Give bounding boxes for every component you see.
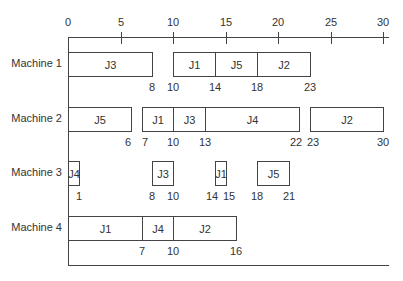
time-label: 18 <box>247 81 267 93</box>
time-label: 8 <box>142 190 162 202</box>
tick-label: 25 <box>319 16 343 28</box>
time-axis-line <box>68 37 389 38</box>
tick-label: 10 <box>161 16 185 28</box>
job-bar-j3: J3 <box>68 52 153 77</box>
time-label: 30 <box>373 136 393 148</box>
job-bar-j1: J1 <box>68 216 143 241</box>
job-bar-j3: J3 <box>152 161 174 186</box>
job-bar-j5: J5 <box>68 107 132 132</box>
job-bar-j3: J3 <box>173 107 206 132</box>
time-label: 10 <box>163 136 183 148</box>
tick-label: 20 <box>266 16 290 28</box>
job-bar-j1: J1 <box>215 161 227 186</box>
time-label: 23 <box>303 136 323 148</box>
tick-mark <box>121 32 122 44</box>
time-label: 14 <box>205 81 225 93</box>
job-bar-j5: J5 <box>257 161 290 186</box>
time-label: 13 <box>195 136 215 148</box>
tick-label: 15 <box>214 16 238 28</box>
job-bar-j5: J5 <box>215 52 258 77</box>
tick-label: 0 <box>56 16 80 28</box>
time-label: 7 <box>132 245 152 257</box>
time-label: 23 <box>300 81 320 93</box>
tick-label: 30 <box>371 16 395 28</box>
time-label: 7 <box>135 136 155 148</box>
job-bar-j4: J4 <box>68 161 80 186</box>
job-bar-j1: J1 <box>173 52 216 77</box>
time-label: 16 <box>226 245 246 257</box>
job-bar-j2: J2 <box>257 52 311 77</box>
time-label: 1 <box>69 190 89 202</box>
tick-mark <box>331 32 332 44</box>
time-label: 8 <box>142 81 162 93</box>
job-bar-j2: J2 <box>310 107 384 132</box>
time-label: 15 <box>219 190 239 202</box>
time-label: 21 <box>279 190 299 202</box>
job-bar-j2: J2 <box>173 216 237 241</box>
job-bar-j4: J4 <box>142 216 174 241</box>
machine-label: Machine 2 <box>0 112 62 124</box>
bottom-baseline <box>68 265 389 266</box>
tick-label: 5 <box>109 16 133 28</box>
machine-label: Machine 4 <box>0 221 62 233</box>
tick-mark <box>383 32 384 44</box>
tick-mark <box>278 32 279 44</box>
tick-mark <box>173 32 174 44</box>
time-label: 10 <box>163 245 183 257</box>
time-label: 10 <box>163 81 183 93</box>
machine-label: Machine 3 <box>0 166 62 178</box>
job-bar-j1: J1 <box>142 107 174 132</box>
tick-mark <box>226 32 227 44</box>
time-label: 10 <box>163 190 183 202</box>
machine-label: Machine 1 <box>0 57 62 69</box>
gantt-chart: 051015202530 Machine 1J3J1J5J2810141823M… <box>0 0 403 281</box>
job-bar-j4: J4 <box>205 107 300 132</box>
time-label: 18 <box>247 190 267 202</box>
